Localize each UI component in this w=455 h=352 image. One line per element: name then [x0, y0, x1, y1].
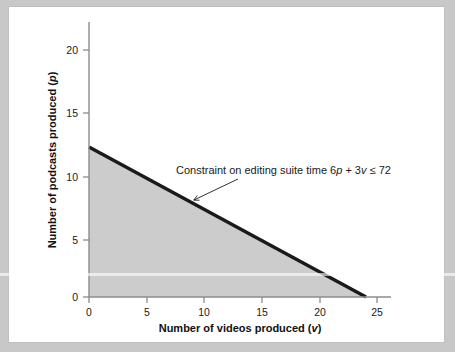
y-tick-label: 10 — [66, 171, 78, 183]
constraint-annotation-label: Constraint on editing suite time 6p + 3v… — [176, 164, 391, 176]
annotation-arrow — [194, 179, 238, 200]
x-tick-label: 5 — [144, 306, 150, 318]
y-tick-label: 5 — [72, 234, 78, 246]
y-tick-label: 20 — [66, 44, 78, 56]
x-axis-tick-labels: 0 5 10 15 20 25 — [86, 306, 383, 318]
x-tick-label: 25 — [371, 306, 383, 318]
y-axis-title: Number of podcasts produced (p) — [46, 71, 58, 248]
x-tick-label: 0 — [86, 306, 92, 318]
x-axis-title: Number of videos produced (v) — [159, 322, 322, 334]
x-tick-label: 15 — [256, 306, 268, 318]
y-tick-label: 15 — [66, 107, 78, 119]
x-axis-ticks — [89, 297, 377, 303]
y-axis-tick-labels: 20 15 10 5 0 — [66, 44, 78, 303]
figure-root: 20 15 10 5 0 0 5 10 15 20 25 Number of v… — [0, 0, 455, 352]
x-tick-label: 10 — [198, 306, 210, 318]
y-axis-ticks — [83, 50, 89, 297]
x-tick-label: 20 — [314, 306, 326, 318]
y-tick-label: 0 — [72, 291, 78, 303]
chart-canvas: 20 15 10 5 0 0 5 10 15 20 25 Number of v… — [0, 0, 455, 352]
